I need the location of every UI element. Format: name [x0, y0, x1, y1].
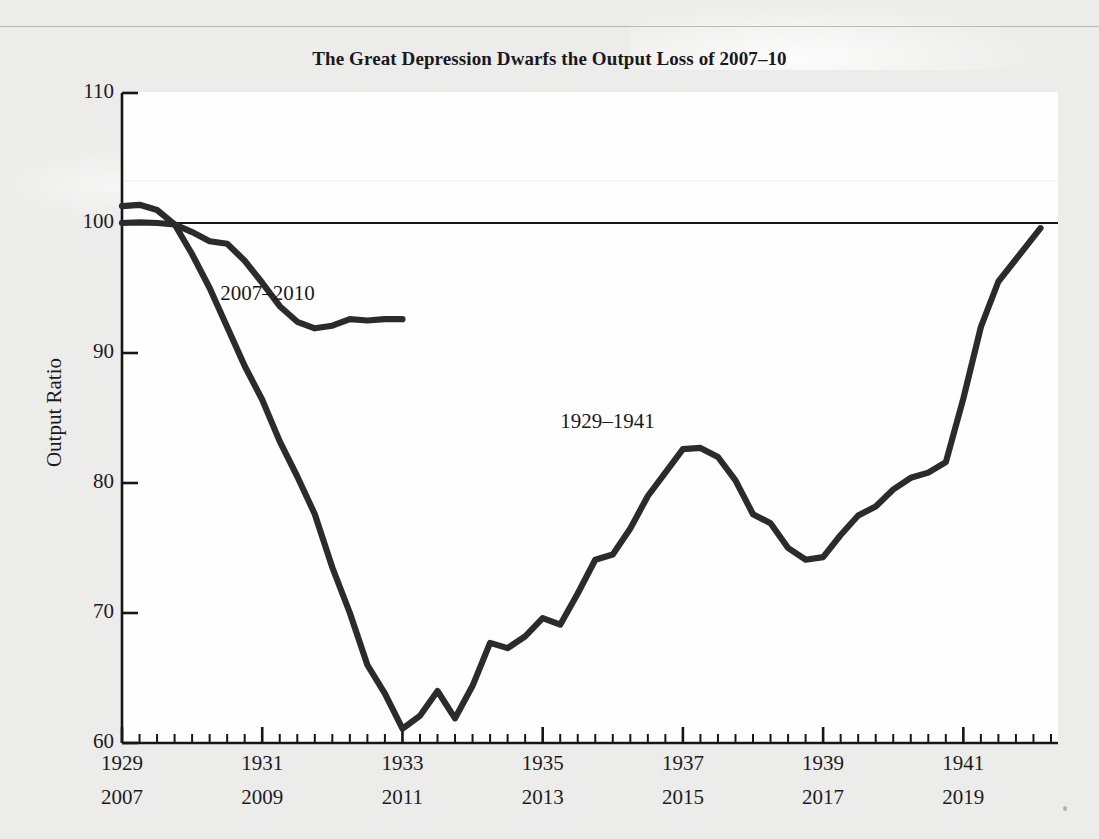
x-tick-label-row1-1935: 1935	[483, 751, 603, 776]
x-tick-label-row2-2009: 2009	[202, 785, 322, 810]
x-tick-label-row1-1931: 1931	[202, 751, 322, 776]
x-tick-label-row2-2007: 2007	[62, 785, 182, 810]
y-tick-label-90: 90	[58, 339, 114, 364]
x-ticks-group	[122, 727, 1051, 743]
y-ticks-group	[122, 93, 138, 743]
series-line-2007-2010	[122, 222, 402, 328]
y-tick-label-80: 80	[58, 469, 114, 494]
x-tick-label-row1-1929: 1929	[62, 751, 182, 776]
y-tick-label-100: 100	[58, 209, 114, 234]
x-tick-label-row2-2013: 2013	[483, 785, 603, 810]
x-tick-label-row2-2011: 2011	[342, 785, 462, 810]
x-tick-label-row1-1937: 1937	[623, 751, 743, 776]
series-annotation-2007-2010: 2007–2010	[220, 281, 315, 306]
x-tick-label-row1-1933: 1933	[342, 751, 462, 776]
x-tick-label-row2-2015: 2015	[623, 785, 743, 810]
x-tick-label-row1-1941: 1941	[903, 751, 1023, 776]
x-tick-label-row1-1939: 1939	[763, 751, 883, 776]
y-tick-label-110: 110	[58, 79, 114, 104]
x-tick-label-row2-2019: 2019	[903, 785, 1023, 810]
line-chart	[0, 0, 1099, 839]
x-tick-label-row2-2017: 2017	[763, 785, 883, 810]
y-tick-label-70: 70	[58, 599, 114, 624]
series-annotation-1929-1941: 1929–1941	[560, 409, 655, 434]
